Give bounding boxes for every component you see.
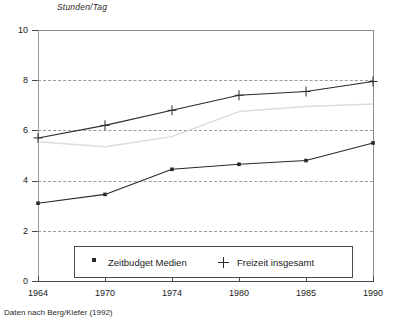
plus-marker-icon [218, 257, 229, 268]
chart-root: Stunden/Tag 10 8 6 4 2 0 1964 1970 1974 … [0, 0, 410, 326]
y-axis-tick-labels: 10 8 6 4 2 0 [0, 0, 28, 326]
legend: Zeitbudget Medien Freizeit insgesamt [74, 246, 353, 278]
x-tick-mark-1990 [373, 276, 374, 282]
y-tick-label-8: 8 [0, 75, 28, 85]
plot-frame-right [373, 30, 374, 281]
x-tick-label-1974: 1974 [162, 288, 182, 298]
x-tick-label-1985: 1985 [296, 288, 316, 298]
y-tick-label-0: 0 [0, 276, 28, 286]
square-marker-icon [89, 257, 100, 268]
x-axis-line [38, 281, 373, 282]
series-zeitbudget-medien [36, 141, 375, 205]
x-tick-label-1964: 1964 [28, 288, 48, 298]
y-tick-label-10: 10 [0, 25, 28, 35]
y-tick-label-6: 6 [0, 125, 28, 135]
gridline-8 [38, 80, 373, 81]
gridline-6 [38, 130, 373, 131]
y-axis-line [38, 30, 39, 281]
x-tick-label-1970: 1970 [95, 288, 115, 298]
series-freizeit-insgesamt [34, 76, 378, 142]
legend-label-freizeit-insgesamt: Freizeit insgesamt [237, 257, 314, 268]
source-note: Daten nach Berg/Kiefer (1992) [4, 308, 113, 317]
legend-item-freizeit-insgesamt: Freizeit insgesamt [218, 247, 314, 277]
x-tick-label-1990: 1990 [363, 288, 383, 298]
y-tick-label-4: 4 [0, 175, 28, 185]
y-tick-label-2: 2 [0, 226, 28, 236]
plot-frame-top [38, 30, 373, 31]
gridline-4 [38, 181, 373, 182]
legend-label-zeitbudget-medien: Zeitbudget Medien [108, 257, 187, 268]
gridline-2 [38, 231, 373, 232]
faint-scan-line [38, 104, 373, 147]
x-tick-mark-1964 [38, 276, 39, 282]
legend-item-zeitbudget-medien: Zeitbudget Medien [89, 247, 187, 277]
y-axis-title: Stunden/Tag [57, 2, 107, 12]
x-tick-label-1980: 1980 [229, 288, 249, 298]
